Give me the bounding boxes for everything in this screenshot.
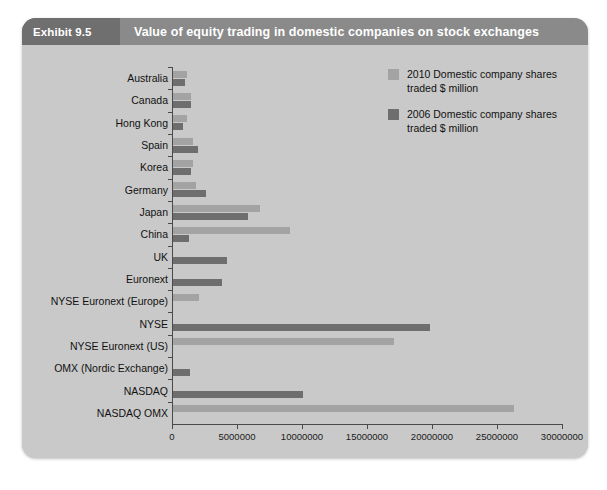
category-label: Germany	[125, 184, 168, 196]
y-axis-tick	[168, 112, 172, 113]
y-axis-tick	[168, 179, 172, 180]
bar-2006	[173, 391, 303, 398]
bar-2006	[173, 123, 183, 130]
bar-2006	[173, 213, 248, 220]
legend-swatch-icon	[388, 109, 399, 120]
chart-legend: 2010 Domestic company shares traded $ mi…	[388, 67, 578, 147]
category-label: Hong Kong	[115, 117, 168, 129]
category-label: OMX (Nordic Exchange)	[54, 362, 168, 374]
bar-2010	[173, 294, 199, 301]
chart-area: AustraliaCanadaHong KongSpainKoreaGerman…	[22, 45, 588, 458]
y-axis-tick	[168, 67, 172, 68]
category-label: NASDAQ	[124, 385, 168, 397]
bar-2010	[173, 93, 191, 100]
y-axis-tick	[168, 335, 172, 336]
bar-2010	[173, 227, 290, 234]
bar-2010	[173, 405, 514, 412]
legend-label: 2006 Domestic company shares traded $ mi…	[407, 107, 578, 135]
bar-2006	[173, 101, 191, 108]
exhibit-header: Exhibit 9.5 Value of equity trading in d…	[22, 18, 588, 45]
y-axis-tick	[168, 268, 172, 269]
y-axis-tick	[168, 246, 172, 247]
y-axis-tick	[168, 201, 172, 202]
category-label: China	[141, 228, 168, 240]
bar-2010	[173, 338, 394, 345]
bar-2006	[173, 324, 430, 331]
category-label: NASDAQ OMX	[97, 407, 168, 419]
x-axis-tick	[432, 424, 433, 429]
exhibit-number: Exhibit 9.5	[22, 18, 120, 45]
category-label: Korea	[140, 161, 168, 173]
x-axis-tick-label: 10000000	[281, 431, 323, 442]
category-axis-labels: AustraliaCanadaHong KongSpainKoreaGerman…	[22, 67, 168, 424]
y-axis-tick	[168, 89, 172, 90]
x-axis-tick	[237, 424, 238, 429]
x-axis-tick-label: 15000000	[346, 431, 388, 442]
y-axis-tick	[168, 379, 172, 380]
category-label: Canada	[131, 94, 168, 106]
x-axis-tick-label: 5000000	[219, 431, 256, 442]
y-axis-tick	[168, 357, 172, 358]
y-axis-tick	[168, 312, 172, 313]
category-label: Euronext	[126, 273, 168, 285]
bar-2010	[173, 115, 187, 122]
y-axis-tick	[168, 134, 172, 135]
bar-2010	[173, 205, 260, 212]
y-axis-tick	[168, 223, 172, 224]
category-label: Australia	[127, 72, 168, 84]
bar-2006	[173, 168, 191, 175]
exhibit-title: Value of equity trading in domestic comp…	[120, 25, 539, 39]
bar-2006	[173, 279, 222, 286]
bar-2006	[173, 369, 190, 376]
legend-item-2010: 2010 Domestic company shares traded $ mi…	[388, 67, 578, 95]
screenshot-root: Exhibit 9.5 Value of equity trading in d…	[0, 0, 607, 490]
category-label: UK	[153, 251, 168, 263]
y-axis-tick	[168, 290, 172, 291]
category-label: NYSE	[139, 318, 168, 330]
x-axis-tick-label: 0	[169, 431, 174, 442]
category-label: NYSE Euronext (Europe)	[51, 295, 168, 307]
legend-swatch-icon	[388, 69, 399, 80]
bar-2010	[173, 138, 193, 145]
bar-2006	[173, 146, 198, 153]
bar-2006	[173, 235, 189, 242]
legend-label: 2010 Domestic company shares traded $ mi…	[407, 67, 578, 95]
x-axis-tick-label: 30000000	[541, 431, 583, 442]
bar-2010	[173, 160, 193, 167]
x-axis-tick	[367, 424, 368, 429]
x-axis-tick	[302, 424, 303, 429]
bar-2006	[173, 257, 227, 264]
bar-2006	[173, 190, 206, 197]
x-axis-tick-label: 20000000	[411, 431, 453, 442]
x-axis-tick	[497, 424, 498, 429]
legend-item-2006: 2006 Domestic company shares traded $ mi…	[388, 107, 578, 135]
y-axis-tick	[168, 156, 172, 157]
bar-2010	[173, 71, 187, 78]
bar-2010	[173, 182, 196, 189]
category-label: Spain	[141, 139, 168, 151]
bar-2006	[173, 79, 185, 86]
category-label: Japan	[139, 206, 168, 218]
category-label: NYSE Euronext (US)	[70, 340, 168, 352]
exhibit-panel: Exhibit 9.5 Value of equity trading in d…	[22, 18, 588, 458]
x-axis-tick-label: 25000000	[476, 431, 518, 442]
x-axis-tick	[562, 424, 563, 429]
x-axis-tick	[172, 424, 173, 429]
y-axis-tick	[168, 402, 172, 403]
